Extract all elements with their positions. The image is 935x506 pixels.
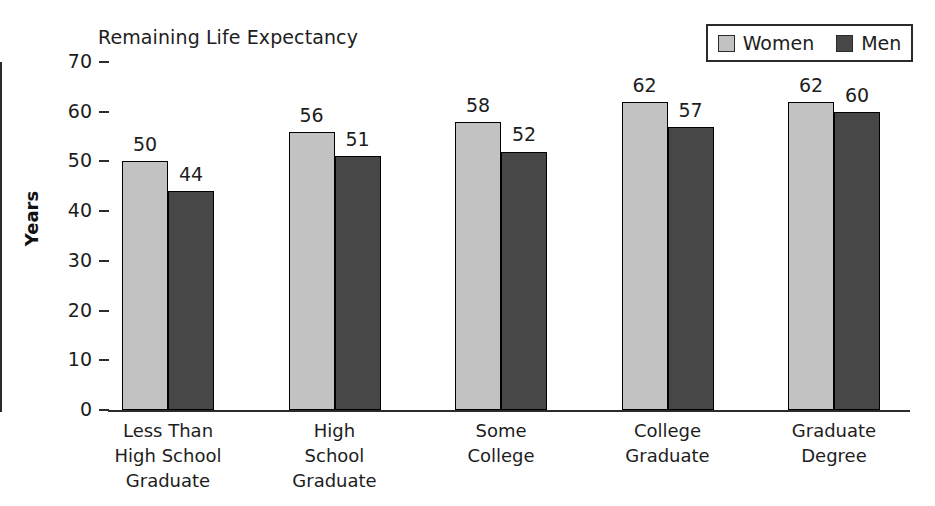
bar-value-men-2: 51 <box>325 130 391 149</box>
y-tick-label-30: 30 <box>52 251 92 270</box>
bar-value-women-1: 50 <box>112 135 178 154</box>
y-tick-label-0: 0 <box>52 400 92 419</box>
y-tick-label-70: 70 <box>52 52 92 71</box>
bar-value-women-3: 58 <box>445 96 511 115</box>
bar-value-men-4: 57 <box>658 101 724 120</box>
bar-men-1 <box>168 191 214 410</box>
y-tick-label-60: 60 <box>52 102 92 121</box>
bar-women-4 <box>622 102 668 410</box>
bar-women-3 <box>455 122 501 410</box>
category-label-1: Less Than High School Graduate <box>98 418 238 493</box>
bar-value-men-1: 44 <box>158 165 224 184</box>
bar-chart-figure: Remaining Life Expectancy Women Men 0102… <box>0 0 935 506</box>
category-label-5: Graduate Degree <box>764 418 904 468</box>
chart-legend: Women Men <box>706 24 913 62</box>
bar-men-2 <box>335 156 381 410</box>
bar-value-men-3: 52 <box>491 125 557 144</box>
bar-women-5 <box>788 102 834 410</box>
category-label-2: High School Graduate <box>265 418 405 493</box>
y-tick-label-40: 40 <box>52 201 92 220</box>
y-axis-line <box>0 62 2 412</box>
y-tick-label-20: 20 <box>52 301 92 320</box>
chart-title: Remaining Life Expectancy <box>98 26 358 48</box>
y-axis-title: Years <box>21 174 42 264</box>
legend-swatch-women <box>718 35 735 52</box>
bar-value-men-5: 60 <box>824 86 890 105</box>
category-label-4: College Graduate <box>598 418 738 468</box>
bar-value-women-2: 56 <box>279 106 345 125</box>
legend-swatch-men <box>836 35 853 52</box>
bar-women-1 <box>122 161 168 410</box>
bar-men-4 <box>668 127 714 410</box>
y-axis-tick-labels: 010203040506070 <box>44 0 92 506</box>
bar-men-5 <box>834 112 880 410</box>
legend-entry-men: Men <box>836 34 901 53</box>
bar-value-women-4: 62 <box>612 76 678 95</box>
bar-women-2 <box>289 132 335 410</box>
x-axis-line <box>108 410 910 412</box>
y-tick-label-50: 50 <box>52 151 92 170</box>
legend-entry-women: Women <box>718 34 815 53</box>
y-tick-label-10: 10 <box>52 350 92 369</box>
legend-label-men: Men <box>861 34 901 53</box>
category-label-3: Some College <box>431 418 571 468</box>
bar-men-3 <box>501 152 547 411</box>
legend-label-women: Women <box>743 34 815 53</box>
